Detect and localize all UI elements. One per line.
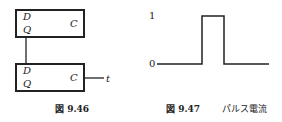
pulse-waveform: [157, 16, 269, 64]
caption-9-47-number: 図 9.47: [166, 102, 200, 115]
y-high-label: 1: [149, 10, 155, 21]
y-low-label: 0: [149, 58, 155, 69]
caption-9-47-text: パルス電流: [222, 102, 267, 115]
